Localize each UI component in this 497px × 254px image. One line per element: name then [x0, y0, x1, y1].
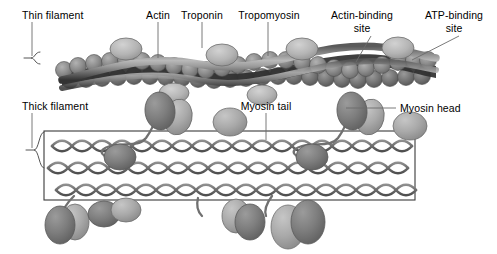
label-troponin: Troponin: [174, 9, 230, 21]
label-thick-filament: Thick filament: [22, 100, 88, 112]
label-myosin-tail: Myosin tail: [228, 100, 304, 112]
diagram-canvas: [0, 0, 497, 254]
myosin-tail-down-2: [197, 198, 202, 216]
troponin-3: [286, 38, 318, 60]
label-thin-filament: Thin filament: [22, 9, 83, 21]
myosin-molecule-down-2: [197, 198, 265, 240]
myosin-head-up-4-light: [393, 112, 427, 140]
thick-filament-group: [44, 91, 427, 249]
thick-filament-bracket: [26, 132, 44, 168]
muscle-filament-diagram: Thin filament Actin Troponin Tropomyosin…: [0, 0, 497, 254]
myosin-head-up-3-light: [213, 108, 247, 136]
myosin-head-down-5: [111, 198, 141, 222]
label-atp-binding-site-line1: ATP-binding: [414, 9, 494, 21]
troponin-2: [206, 44, 238, 66]
label-tropomyosin: Tropomyosin: [232, 9, 306, 21]
myosin-molecule-down-1: [45, 196, 89, 244]
label-actin-binding-site-line2: site: [320, 22, 404, 34]
troponin-4: [382, 37, 414, 59]
thin-filament-group: [56, 37, 437, 105]
troponin-1: [110, 38, 142, 60]
label-actin-binding-site-line1: Actin-binding: [320, 9, 404, 21]
label-myosin-head: Myosin head: [400, 102, 461, 114]
label-atp-binding-site-line2: site: [414, 22, 494, 34]
myosin-molecule-down-3: [265, 196, 325, 249]
